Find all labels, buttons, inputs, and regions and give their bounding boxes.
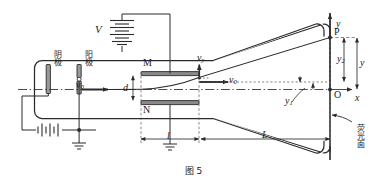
- label-plate-n: N: [143, 105, 150, 115]
- label-y2-sub: 2: [341, 57, 344, 64]
- label-gap-d: d: [123, 83, 128, 93]
- crt-diagram-canvas: [0, 0, 387, 185]
- figure-caption: 图 5: [0, 164, 387, 177]
- label-cathode: 阴极: [52, 50, 60, 66]
- plate-supply-battery: [110, 21, 134, 45]
- circuit-junction-dot: [77, 128, 81, 132]
- origin-marker: [328, 88, 332, 92]
- label-plate-m: M: [143, 58, 152, 68]
- label-v0-left-sub: 0: [80, 83, 83, 90]
- label-origin: O: [334, 90, 341, 100]
- label-y1-sub: 1: [289, 99, 292, 106]
- label-drift-length-L: L: [262, 130, 268, 140]
- construction-lines: [141, 38, 356, 144]
- crt-diagram-figure: V 阴极 阳极 M N v0 v0 vy d l L y1 y2 y y x O…: [0, 0, 387, 185]
- accelerating-circuit: [22, 81, 96, 149]
- accelerating-battery: [38, 124, 58, 137]
- label-fluorescent-screen: 荧光面: [355, 124, 363, 148]
- label-v0-right-sub: 0: [233, 78, 236, 85]
- screen-label-leader: [332, 115, 352, 122]
- label-anode: 阳极: [83, 50, 91, 66]
- label-y-total: y: [360, 58, 364, 68]
- label-axis-x: x: [355, 93, 359, 103]
- label-supply-voltage: V: [95, 24, 102, 35]
- label-point-p: P: [334, 27, 340, 37]
- anode-electrode-upper: [77, 65, 81, 78]
- deflecting-plates: [141, 72, 199, 105]
- spot-p-marker: [328, 36, 332, 40]
- plate-n-ground: [163, 105, 177, 150]
- label-plate-length-l: l: [167, 131, 170, 141]
- label-vy-sub: y: [201, 56, 204, 63]
